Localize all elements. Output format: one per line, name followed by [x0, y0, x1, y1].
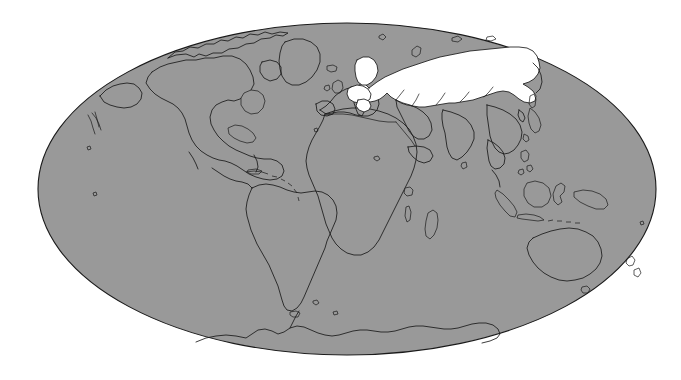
world-map-svg	[0, 0, 681, 380]
lake-tanganyika	[405, 206, 411, 222]
world-map-figure	[0, 0, 681, 380]
lake-victoria	[404, 187, 413, 196]
globe-disc-ellipse	[38, 23, 656, 355]
